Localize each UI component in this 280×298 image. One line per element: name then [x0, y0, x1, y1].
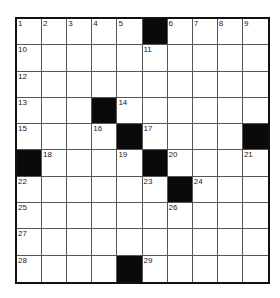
- grid-cell[interactable]: 28: [17, 256, 42, 282]
- grid-cell[interactable]: [67, 124, 92, 150]
- grid-cell[interactable]: 3: [67, 19, 92, 45]
- clue-number: 19: [118, 150, 127, 159]
- clue-number: 15: [18, 124, 27, 133]
- grid-cell[interactable]: [193, 72, 218, 98]
- grid-cell[interactable]: [143, 203, 168, 229]
- grid-cell[interactable]: [42, 72, 67, 98]
- grid-cell[interactable]: [42, 229, 67, 255]
- grid-cell[interactable]: [243, 177, 268, 203]
- grid-cell[interactable]: [92, 229, 117, 255]
- grid-cell[interactable]: [92, 45, 117, 71]
- grid-cell[interactable]: [92, 150, 117, 176]
- grid-cell[interactable]: [67, 98, 92, 124]
- grid-cell[interactable]: [218, 98, 243, 124]
- grid-cell[interactable]: 27: [17, 229, 42, 255]
- grid-cell[interactable]: [218, 256, 243, 282]
- grid-cell[interactable]: [218, 229, 243, 255]
- grid-cell[interactable]: [143, 229, 168, 255]
- grid-cell[interactable]: [67, 72, 92, 98]
- grid-cell[interactable]: 15: [17, 124, 42, 150]
- grid-cell[interactable]: 12: [17, 72, 42, 98]
- grid-cell[interactable]: 2: [42, 19, 67, 45]
- grid-cell[interactable]: [193, 124, 218, 150]
- grid-cell[interactable]: 22: [17, 177, 42, 203]
- clue-number: 7: [194, 19, 198, 28]
- clue-number: 3: [68, 19, 72, 28]
- grid-cell[interactable]: [117, 72, 142, 98]
- grid-cell[interactable]: 20: [168, 150, 193, 176]
- grid-cell[interactable]: [67, 150, 92, 176]
- grid-cell[interactable]: [218, 72, 243, 98]
- grid-cell[interactable]: 18: [42, 150, 67, 176]
- grid-cell[interactable]: [243, 98, 268, 124]
- grid-cell[interactable]: [168, 256, 193, 282]
- clue-number: 14: [118, 98, 127, 107]
- grid-cell[interactable]: [218, 177, 243, 203]
- grid-cell[interactable]: 29: [143, 256, 168, 282]
- clue-number: 21: [244, 150, 253, 159]
- grid-cell[interactable]: [117, 203, 142, 229]
- grid-cell[interactable]: [42, 124, 67, 150]
- grid-cell[interactable]: 17: [143, 124, 168, 150]
- grid-cell[interactable]: 8: [218, 19, 243, 45]
- grid-cell[interactable]: 24: [193, 177, 218, 203]
- grid-cell[interactable]: [168, 229, 193, 255]
- grid-cell[interactable]: [92, 203, 117, 229]
- grid-cell[interactable]: 10: [17, 45, 42, 71]
- grid-cell[interactable]: [168, 72, 193, 98]
- grid-cell[interactable]: 7: [193, 19, 218, 45]
- grid-cell[interactable]: [243, 203, 268, 229]
- grid-cell[interactable]: [67, 203, 92, 229]
- grid-cell[interactable]: [117, 177, 142, 203]
- grid-cell[interactable]: [92, 256, 117, 282]
- grid-cell[interactable]: 26: [168, 203, 193, 229]
- grid-cell[interactable]: 23: [143, 177, 168, 203]
- grid-cell[interactable]: [193, 203, 218, 229]
- grid-cell[interactable]: [193, 229, 218, 255]
- grid-cell[interactable]: 19: [117, 150, 142, 176]
- grid-cell[interactable]: 25: [17, 203, 42, 229]
- grid-cell[interactable]: [42, 45, 67, 71]
- grid-cell[interactable]: 16: [92, 124, 117, 150]
- grid-cell[interactable]: [42, 98, 67, 124]
- grid-cell[interactable]: [168, 45, 193, 71]
- grid-cell[interactable]: [143, 72, 168, 98]
- clue-number: 17: [144, 124, 153, 133]
- grid-cell[interactable]: 13: [17, 98, 42, 124]
- grid-cell[interactable]: [143, 98, 168, 124]
- grid-cell[interactable]: [218, 150, 243, 176]
- grid-cell[interactable]: [168, 124, 193, 150]
- grid-cell[interactable]: 6: [168, 19, 193, 45]
- grid-cell[interactable]: [92, 72, 117, 98]
- grid-cell[interactable]: 5: [117, 19, 142, 45]
- grid-cell[interactable]: [243, 45, 268, 71]
- grid-cell[interactable]: [67, 229, 92, 255]
- grid-cell[interactable]: 14: [117, 98, 142, 124]
- grid-cell[interactable]: 21: [243, 150, 268, 176]
- grid-cell[interactable]: [67, 45, 92, 71]
- grid-cell[interactable]: [168, 98, 193, 124]
- grid-cell[interactable]: 9: [243, 19, 268, 45]
- grid-cell[interactable]: [42, 177, 67, 203]
- grid-cell[interactable]: [193, 150, 218, 176]
- grid-cell[interactable]: [193, 98, 218, 124]
- grid-cell[interactable]: [193, 45, 218, 71]
- grid-cell[interactable]: [92, 177, 117, 203]
- grid-cell[interactable]: [243, 256, 268, 282]
- grid-cell[interactable]: [218, 203, 243, 229]
- grid-cell[interactable]: [42, 256, 67, 282]
- grid-cell[interactable]: 4: [92, 19, 117, 45]
- grid-cell[interactable]: [243, 229, 268, 255]
- grid-cell[interactable]: [117, 45, 142, 71]
- grid-cell[interactable]: [67, 256, 92, 282]
- grid-cell[interactable]: [218, 124, 243, 150]
- grid-cell[interactable]: [67, 177, 92, 203]
- grid-cell[interactable]: 11: [143, 45, 168, 71]
- clue-number: 9: [244, 19, 248, 28]
- grid-cell[interactable]: [117, 229, 142, 255]
- grid-cell[interactable]: [42, 203, 67, 229]
- grid-cell[interactable]: 1: [17, 19, 42, 45]
- grid-cell[interactable]: [193, 256, 218, 282]
- grid-cell[interactable]: [243, 72, 268, 98]
- grid-cell[interactable]: [218, 45, 243, 71]
